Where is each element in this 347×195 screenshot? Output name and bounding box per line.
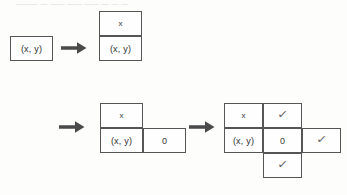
- cell-step2-coord: (x, y): [99, 36, 142, 61]
- cell-step3-zero: 0: [143, 128, 186, 153]
- diagram-canvas: ——— — —— —— —— — — —— (x, y) x (x, y) x: [0, 0, 347, 195]
- check-icon: ✓: [277, 158, 289, 171]
- cell-label: (x, y): [111, 135, 132, 145]
- figure-step-2: x (x, y): [99, 11, 142, 61]
- cell-step4-zero: 0: [263, 128, 302, 153]
- cell-step3-coord: (x, y): [100, 128, 143, 153]
- cell-step4-check-top: ✓: [263, 103, 302, 128]
- arrow-right-icon: [189, 119, 215, 135]
- arrow-right-icon: [59, 119, 85, 135]
- cell-step1-coord: (x, y): [10, 36, 53, 61]
- figure-step-4: x ✓ (x, y) 0 ✓ ✓: [224, 103, 334, 178]
- cell-label: x: [119, 111, 123, 120]
- cell-label: (x, y): [21, 43, 42, 53]
- cell-step3-cross: x: [100, 103, 143, 128]
- arrow-right-icon: [61, 40, 87, 56]
- cell-label: (x, y): [110, 43, 131, 53]
- cell-label: (x, y): [233, 135, 254, 145]
- cell-step2-cross: x: [99, 11, 142, 36]
- cell-step4-coord: (x, y): [224, 128, 263, 153]
- check-icon: ✓: [277, 108, 289, 121]
- figure-step-3: x (x, y) 0: [100, 103, 186, 153]
- cell-step4-check-right: ✓: [302, 128, 341, 153]
- cell-label: x: [241, 111, 245, 120]
- cell-step4-check-bottom: ✓: [263, 153, 302, 178]
- arrow-into-step3: [59, 119, 85, 135]
- cell-step4-cross: x: [224, 103, 263, 128]
- top-caption-text: ——— — —— —— —— — — ——: [16, 0, 128, 8]
- cell-label: 0: [280, 136, 285, 146]
- arrow-step1-to-step2: [61, 40, 87, 56]
- figure-step-1: (x, y): [10, 36, 53, 61]
- check-icon: ✓: [316, 133, 328, 146]
- cell-label: 0: [162, 136, 167, 146]
- arrow-step3-to-step4: [189, 119, 215, 135]
- cell-label: x: [118, 19, 122, 28]
